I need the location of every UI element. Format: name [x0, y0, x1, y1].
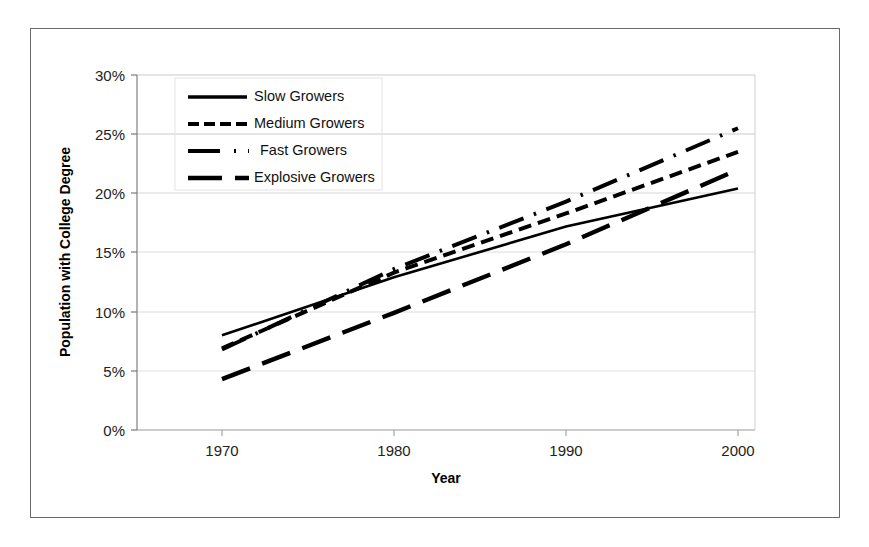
x-tick-label-1970: 1970	[205, 442, 238, 459]
series-line-explosive-growers	[222, 170, 738, 379]
y-tick-label-30: 30%	[95, 67, 125, 84]
y-tick-label-25: 25%	[95, 126, 125, 143]
chart-figure: 30% 25% 20% 15% 10% 5% 0% 1970 1980 1990…	[0, 0, 869, 547]
legend-entry-medium-growers[interactable]: Medium Growers	[188, 115, 364, 131]
legend-entry-slow-growers[interactable]: Slow Growers	[188, 88, 344, 104]
legend-entry-fast-growers[interactable]: Fast Growers	[188, 142, 347, 158]
x-axis-title: Year	[431, 470, 461, 486]
y-tick-label-10: 10%	[95, 304, 125, 321]
y-tick-label-15: 15%	[95, 244, 125, 261]
y-axis-tick-labels: 30% 25% 20% 15% 10% 5% 0%	[95, 67, 125, 439]
x-axis-tick-labels: 1970 1980 1990 2000	[205, 442, 754, 459]
x-tick-label-2000: 2000	[721, 442, 754, 459]
legend-entry-explosive-growers[interactable]: Explosive Growers	[188, 169, 375, 185]
y-tick-label-0: 0%	[103, 422, 125, 439]
y-tick-label-5: 5%	[103, 363, 125, 380]
legend-label-slow-growers: Slow Growers	[254, 88, 344, 104]
data-series-layer	[222, 128, 738, 379]
x-tick-label-1990: 1990	[549, 442, 582, 459]
y-tick-label-20: 20%	[95, 185, 125, 202]
x-tick-label-1980: 1980	[377, 442, 410, 459]
legend-label-medium-growers: Medium Growers	[254, 115, 364, 131]
line-chart: 30% 25% 20% 15% 10% 5% 0% 1970 1980 1990…	[0, 0, 869, 547]
x-axis-ticks	[222, 430, 738, 436]
y-axis-title: Population with College Degree	[57, 147, 73, 357]
y-axis-ticks	[131, 75, 137, 430]
legend-label-explosive-growers: Explosive Growers	[254, 169, 375, 185]
legend-label-fast-growers: Fast Growers	[260, 142, 347, 158]
